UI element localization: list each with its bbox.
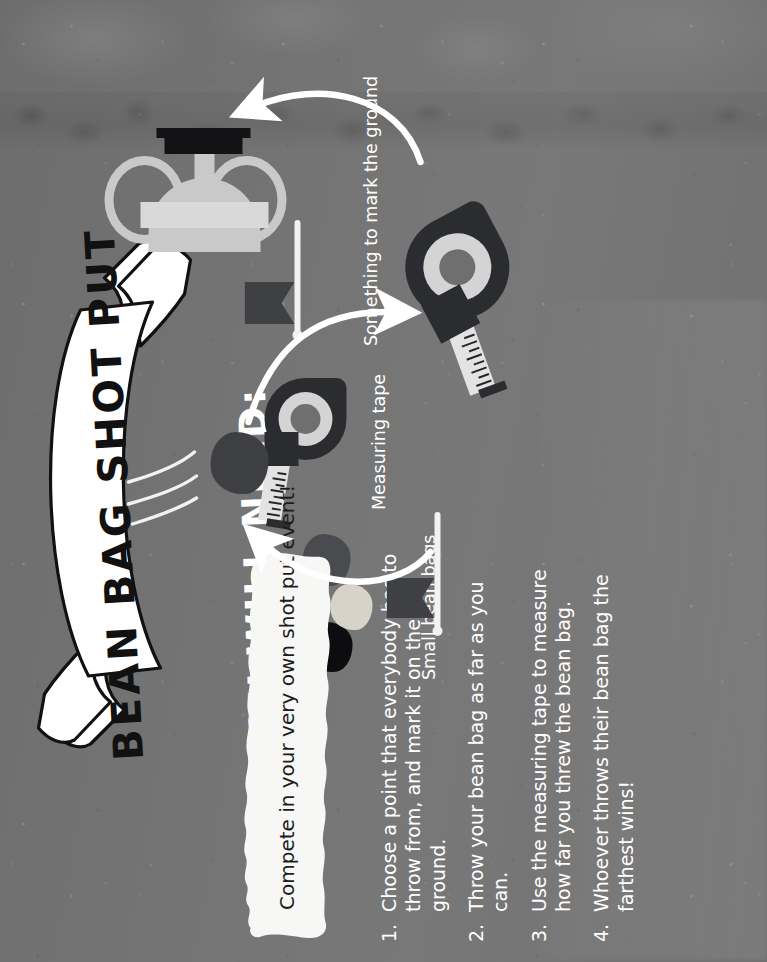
step-item: 1. Choose a point that everybody has to … [376, 522, 449, 942]
step-item: 4. Whoever throws their bean bag the far… [588, 522, 637, 942]
step-number: 1. [376, 912, 400, 942]
supply-label-measuring-tape: Measuring tape [368, 374, 388, 510]
step-number: 2. [463, 912, 487, 942]
poster-screenshot: BEAN BAG SHOT PUT YOU WILL NEED: Small b… [0, 0, 767, 962]
flag-marker-icon [244, 212, 352, 342]
step-number: 4. [588, 912, 612, 942]
poster-tagline: Compete in your very own shot put event! [232, 565, 340, 910]
step-text: Choose a point that everybody has to thr… [376, 540, 449, 912]
step-item: 3. Use the measuring tape to measure how… [526, 522, 575, 942]
supply-item-measuring-tape: Measuring tape [238, 346, 450, 506]
measuring-tape-icon [234, 372, 354, 484]
supply-item-ground-marker: Something to mark the ground [238, 112, 450, 342]
tagline-panel: Compete in your very own shot put event! [232, 549, 340, 944]
step-text: Use the measuring tape to measure how fa… [526, 540, 575, 912]
step-item: 2. Throw your bean bag as far as you can… [463, 522, 512, 942]
instruction-steps: 1. Choose a point that everybody has to … [376, 522, 651, 942]
step-number: 3. [526, 912, 550, 942]
title-banner: BEAN BAG SHOT PUT [18, 234, 210, 754]
banner-ribbon-icon [18, 234, 210, 754]
supply-label-ground-marker: Something to mark the ground [360, 76, 380, 346]
step-text: Whoever throws their bean bag the farthe… [588, 540, 637, 912]
poster-artwork: BEAN BAG SHOT PUT YOU WILL NEED: Small b… [0, 0, 767, 962]
step-text: Throw your bean bag as far as you can. [463, 540, 512, 912]
